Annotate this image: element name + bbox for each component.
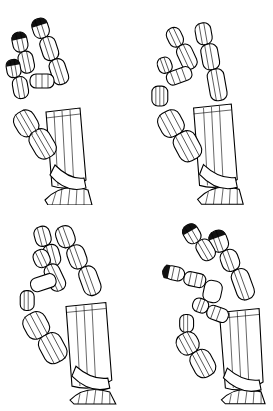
wireframe-hand-icon (0, 0, 136, 205)
hand-pose-bottom-left (0, 205, 136, 410)
wireframe-hand-icon (0, 205, 136, 410)
hand-pose-top-right (136, 0, 272, 205)
wireframe-hand-icon (136, 205, 272, 410)
wireframe-hand-icon (136, 0, 272, 205)
hand-pose-bottom-right (136, 205, 272, 410)
hand-pose-top-left (0, 0, 136, 205)
